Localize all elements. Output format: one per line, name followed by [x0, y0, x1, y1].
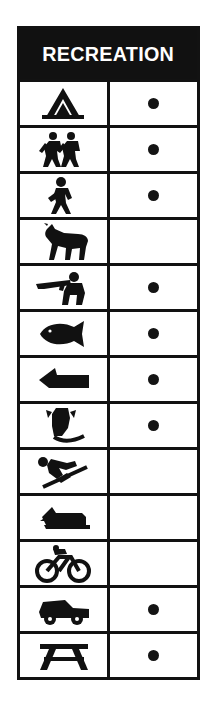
availability-cell [110, 128, 197, 171]
off-road-vehicle-icon [35, 594, 93, 626]
boat-launch-icon [33, 366, 95, 394]
availability-cell [110, 450, 197, 493]
snow-skiing-icon [33, 453, 95, 491]
hiking-icon [36, 131, 92, 169]
horseback-riding-icon [34, 222, 94, 262]
legend-row [20, 355, 197, 401]
availability-cell [110, 542, 197, 585]
availability-dot-icon [148, 190, 159, 201]
availability-dot-icon [148, 374, 159, 385]
fishing-icon [32, 319, 96, 349]
availability-cell [110, 496, 197, 539]
legend-row [20, 585, 197, 631]
icon-cell [20, 358, 110, 401]
icon-cell [20, 404, 110, 447]
legend-header: RECREATION [20, 29, 197, 79]
legend-row [20, 309, 197, 355]
availability-dot-icon [148, 98, 159, 109]
icon-cell [20, 128, 110, 171]
legend-row [20, 171, 197, 217]
recreation-legend-table: RECREATION [17, 26, 200, 680]
icon-cell [20, 82, 110, 125]
availability-cell [110, 634, 197, 677]
legend-row [20, 79, 197, 125]
legend-row [20, 217, 197, 263]
availability-dot-icon [148, 420, 159, 431]
page-title: RECREATION [43, 42, 175, 66]
camping-tent-icon [36, 86, 92, 122]
snowmobile-icon [32, 503, 96, 533]
icon-cell [20, 312, 110, 355]
availability-cell [110, 404, 197, 447]
hunting-icon [32, 271, 96, 305]
legend-row [20, 401, 197, 447]
water-skiing-icon [38, 406, 90, 446]
legend-row [20, 493, 197, 539]
picnic-table-icon [36, 640, 92, 672]
availability-cell [110, 358, 197, 401]
availability-cell [110, 312, 197, 355]
availability-dot-icon [148, 650, 159, 661]
icon-cell [20, 634, 110, 677]
icon-cell [20, 496, 110, 539]
legend-row [20, 125, 197, 171]
legend-rows [20, 79, 197, 677]
icon-cell [20, 266, 110, 309]
availability-cell [110, 588, 197, 631]
walking-trail-icon [42, 176, 86, 216]
legend-row [20, 631, 197, 677]
legend-row [20, 263, 197, 309]
icon-cell [20, 450, 110, 493]
availability-dot-icon [148, 604, 159, 615]
icon-cell [20, 174, 110, 217]
legend-row [20, 447, 197, 493]
legend-row [20, 539, 197, 585]
bicycling-icon [33, 545, 95, 583]
availability-cell [110, 266, 197, 309]
availability-cell [110, 220, 197, 263]
availability-dot-icon [148, 328, 159, 339]
availability-cell [110, 82, 197, 125]
icon-cell [20, 220, 110, 263]
availability-cell [110, 174, 197, 217]
icon-cell [20, 542, 110, 585]
availability-dot-icon [148, 282, 159, 293]
icon-cell [20, 588, 110, 631]
availability-dot-icon [148, 144, 159, 155]
